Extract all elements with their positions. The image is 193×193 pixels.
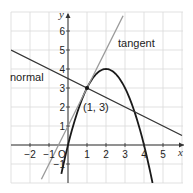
x-tick-label: −2	[24, 149, 36, 160]
y-tick-label: 2	[59, 102, 65, 113]
y-tick-label: −1	[54, 159, 66, 170]
x-tick-label: 2	[103, 149, 109, 160]
x-tick-label: 3	[122, 149, 128, 160]
y-axis-label: y	[58, 8, 64, 20]
y-tick-label: 5	[59, 45, 65, 56]
tangent-normal-graph: −2−1O12345−1123456 tangent normal (1, 3)…	[0, 0, 193, 193]
x-tick-label: 4	[141, 149, 147, 160]
y-axis-arrow-icon	[66, 13, 71, 18]
tangent-label: tangent	[118, 37, 155, 49]
plot-lines	[11, 16, 182, 183]
y-tick-label: 4	[59, 64, 65, 75]
normal-line	[11, 50, 182, 136]
y-tick-label: 1	[59, 121, 65, 132]
x-axis-label: x	[177, 146, 183, 158]
x-tick-label: 5	[160, 149, 166, 160]
tangent-point-marker	[85, 86, 89, 90]
axes	[11, 13, 184, 183]
grid	[11, 12, 183, 183]
y-tick-label: 6	[59, 26, 65, 37]
point-label: (1, 3)	[83, 101, 109, 113]
normal-label: normal	[10, 71, 44, 83]
x-tick-label: 1	[84, 149, 90, 160]
y-tick-label: 3	[59, 83, 65, 94]
